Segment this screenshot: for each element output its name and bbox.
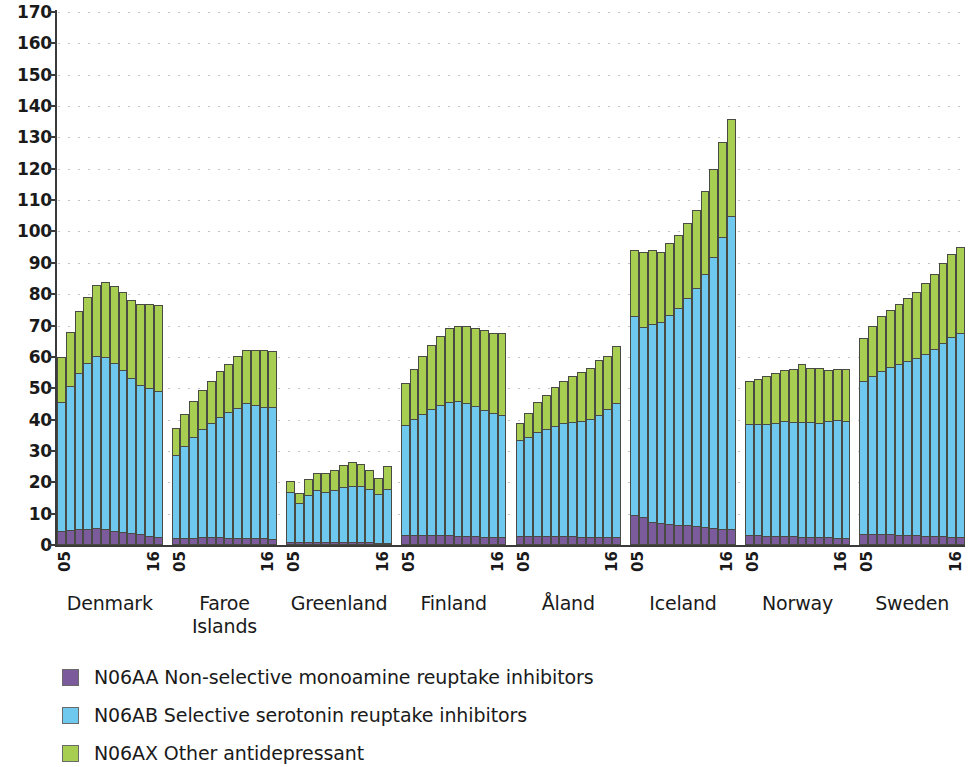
- bar[interactable]: [674, 12, 683, 545]
- bar[interactable]: [516, 12, 525, 545]
- bar[interactable]: [313, 12, 322, 545]
- bar[interactable]: [436, 12, 445, 545]
- bar[interactable]: [92, 12, 101, 545]
- bar[interactable]: [224, 12, 233, 545]
- bar[interactable]: [489, 12, 498, 545]
- bar[interactable]: [762, 12, 771, 545]
- bar[interactable]: [568, 12, 577, 545]
- bar[interactable]: [524, 12, 533, 545]
- bar[interactable]: [859, 12, 868, 545]
- bar[interactable]: [789, 12, 798, 545]
- bar[interactable]: [260, 12, 269, 545]
- bar[interactable]: [136, 12, 145, 545]
- bar[interactable]: [903, 12, 912, 545]
- bar[interactable]: [357, 12, 366, 545]
- bar[interactable]: [771, 12, 780, 545]
- bar[interactable]: [365, 12, 374, 545]
- bar[interactable]: [268, 12, 277, 545]
- bar[interactable]: [595, 12, 604, 545]
- bar[interactable]: [127, 12, 136, 545]
- bar[interactable]: [939, 12, 948, 545]
- bar[interactable]: [374, 12, 383, 545]
- bar[interactable]: [947, 12, 956, 545]
- bar[interactable]: [119, 12, 128, 545]
- bar[interactable]: [401, 12, 410, 545]
- bar[interactable]: [921, 12, 930, 545]
- bar[interactable]: [207, 12, 216, 545]
- legend-item-ab[interactable]: N06AB Selective serotonin reuptake inhib…: [62, 696, 762, 734]
- bar[interactable]: [806, 12, 815, 545]
- bar[interactable]: [480, 12, 489, 545]
- bar[interactable]: [295, 12, 304, 545]
- bar[interactable]: [445, 12, 454, 545]
- bar[interactable]: [630, 12, 639, 545]
- bar[interactable]: [877, 12, 886, 545]
- bar[interactable]: [286, 12, 295, 545]
- bar[interactable]: [886, 12, 895, 545]
- bar[interactable]: [83, 12, 92, 545]
- bar[interactable]: [462, 12, 471, 545]
- bar[interactable]: [709, 12, 718, 545]
- bar[interactable]: [559, 12, 568, 545]
- bar[interactable]: [339, 12, 348, 545]
- bar[interactable]: [110, 12, 119, 545]
- bar[interactable]: [780, 12, 789, 545]
- bar[interactable]: [216, 12, 225, 545]
- bar[interactable]: [824, 12, 833, 545]
- bar[interactable]: [57, 12, 66, 545]
- bar[interactable]: [639, 12, 648, 545]
- bar[interactable]: [701, 12, 710, 545]
- bar[interactable]: [956, 12, 965, 545]
- bar[interactable]: [586, 12, 595, 545]
- bar[interactable]: [145, 12, 154, 545]
- bar[interactable]: [154, 12, 163, 545]
- bar[interactable]: [692, 12, 701, 545]
- bar[interactable]: [665, 12, 674, 545]
- bar[interactable]: [833, 12, 842, 545]
- bar[interactable]: [612, 12, 621, 545]
- legend-item-aa[interactable]: N06AA Non-selective monoamine reuptake i…: [62, 658, 762, 696]
- bar[interactable]: [471, 12, 480, 545]
- bar[interactable]: [842, 12, 851, 545]
- bar[interactable]: [348, 12, 357, 545]
- bar[interactable]: [172, 12, 181, 545]
- bar[interactable]: [533, 12, 542, 545]
- bar[interactable]: [718, 12, 727, 545]
- bar[interactable]: [321, 12, 330, 545]
- legend-item-ax[interactable]: N06AX Other antidepressant: [62, 734, 762, 767]
- bar[interactable]: [868, 12, 877, 545]
- bar[interactable]: [603, 12, 612, 545]
- bar[interactable]: [101, 12, 110, 545]
- bar[interactable]: [727, 12, 736, 545]
- bar[interactable]: [75, 12, 84, 545]
- bar[interactable]: [410, 12, 419, 545]
- bar[interactable]: [754, 12, 763, 545]
- bar[interactable]: [427, 12, 436, 545]
- bar[interactable]: [498, 12, 507, 545]
- bar[interactable]: [815, 12, 824, 545]
- bar[interactable]: [454, 12, 463, 545]
- bar[interactable]: [683, 12, 692, 545]
- bar[interactable]: [657, 12, 666, 545]
- bar[interactable]: [895, 12, 904, 545]
- bar[interactable]: [418, 12, 427, 545]
- bar[interactable]: [577, 12, 586, 545]
- bar[interactable]: [233, 12, 242, 545]
- bar[interactable]: [648, 12, 657, 545]
- bar[interactable]: [304, 12, 313, 545]
- bar[interactable]: [930, 12, 939, 545]
- bar[interactable]: [798, 12, 807, 545]
- bar[interactable]: [542, 12, 551, 545]
- bar[interactable]: [383, 12, 392, 545]
- bar[interactable]: [189, 12, 198, 545]
- bar[interactable]: [66, 12, 75, 545]
- bar[interactable]: [551, 12, 560, 545]
- bar[interactable]: [912, 12, 921, 545]
- bar[interactable]: [745, 12, 754, 545]
- bar[interactable]: [198, 12, 207, 545]
- bar[interactable]: [251, 12, 260, 545]
- bar-segment-ab: [612, 403, 621, 538]
- bar[interactable]: [180, 12, 189, 545]
- bar[interactable]: [242, 12, 251, 545]
- bar[interactable]: [330, 12, 339, 545]
